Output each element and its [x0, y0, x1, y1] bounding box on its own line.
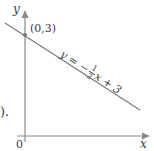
cut-off-text: ).: [0, 105, 9, 118]
point-label: (0,3): [30, 23, 56, 34]
intercept-point: [23, 33, 27, 37]
y-axis-arrow-icon: [22, 10, 29, 18]
y-axis-label: y: [13, 3, 20, 15]
x-axis-label: x: [140, 138, 147, 150]
graph-canvas: [0, 0, 154, 151]
origin-label: 0: [16, 139, 23, 150]
